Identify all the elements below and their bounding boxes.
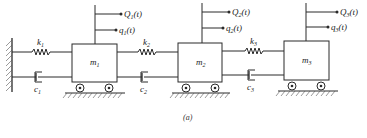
damper-c1-label: c1 — [34, 84, 41, 95]
spring-k2: k2 — [117, 37, 178, 55]
disp-q2-label: q2(t) — [226, 23, 242, 34]
spring-k1: k1 — [12, 37, 72, 55]
mass-m3-label: m3 — [302, 55, 312, 66]
fixed-wall — [6, 38, 12, 92]
spring-k2-label: k2 — [143, 37, 150, 48]
damper-c3-label: c3 — [247, 82, 254, 93]
damper-c2-label: c2 — [140, 84, 147, 95]
force-Q3-label: Q3(t) — [340, 7, 358, 18]
disp-q3-label: q3(t) — [331, 22, 347, 33]
three-dof-system-diagram: k1 c1 m1 Q1(t) q1(t) k2 — [0, 0, 367, 138]
spring-k3: k3 — [222, 36, 284, 54]
mass-m2-label: m2 — [196, 57, 206, 68]
spring-k1-label: k1 — [37, 37, 44, 48]
figure-caption: (a) — [183, 113, 193, 122]
damper-c1: c1 — [12, 72, 72, 95]
mass-m3: m3 Q3(t) q3(t) — [276, 3, 358, 96]
damper-c3: c3 — [222, 70, 284, 93]
mass-m1-label: m1 — [90, 57, 100, 68]
damper-c2: c2 — [117, 72, 178, 95]
force-Q2-label: Q2(t) — [232, 7, 250, 18]
disp-q1-label: q1(t) — [119, 25, 135, 36]
force-Q1-label: Q1(t) — [124, 9, 142, 20]
spring-k3-label: k3 — [250, 36, 257, 47]
